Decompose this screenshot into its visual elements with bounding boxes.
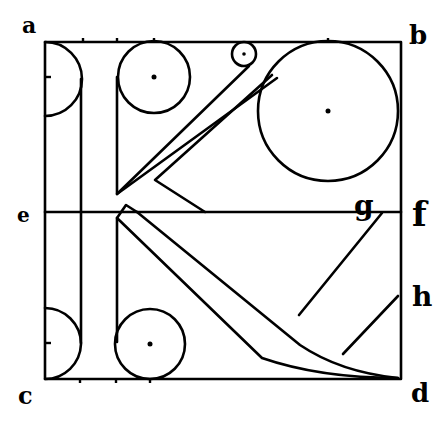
guide-line-g	[299, 213, 382, 315]
label-c: c	[18, 381, 33, 410]
label-a: a	[22, 12, 36, 38]
guide-line-h	[343, 296, 398, 354]
label-h: h	[412, 280, 432, 313]
label-d: d	[411, 378, 429, 408]
label-f: f	[412, 194, 429, 234]
letter-k-construction: a b c d e f g h	[0, 0, 448, 421]
leg-lower-edge	[117, 218, 398, 378]
top-left-half-circle	[45, 42, 82, 116]
center-dots	[148, 52, 331, 346]
label-e: e	[17, 203, 30, 227]
leg-upper-edge	[137, 212, 398, 378]
label-b: b	[409, 20, 427, 50]
label-g: g	[354, 189, 374, 222]
stem-lower-edge	[117, 205, 137, 342]
stem-upper-edge	[117, 77, 277, 194]
upper-arm-left-edge	[117, 66, 249, 194]
